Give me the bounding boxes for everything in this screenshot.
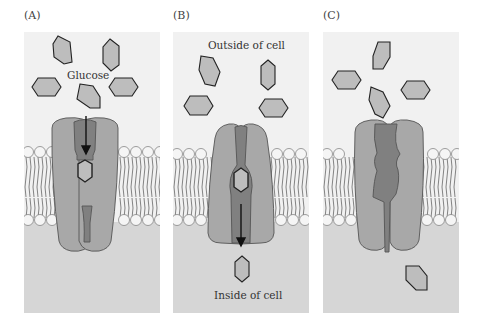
glucose-molecule xyxy=(78,160,92,182)
glucose-label: Glucose xyxy=(67,69,109,81)
panel-c xyxy=(323,32,459,313)
outside-of-cell-label: Outside of cell xyxy=(208,39,285,51)
panel-a: Glucose xyxy=(24,32,160,313)
glucose-transporter xyxy=(52,118,118,252)
panel-b-label: (B) xyxy=(173,9,190,22)
inside-of-cell-label: Inside of cell xyxy=(214,289,282,301)
panel-c-label: (C) xyxy=(323,9,340,22)
panel-a-label: (A) xyxy=(24,9,41,22)
panel-b: Outside of cell Inside of cell xyxy=(173,32,309,313)
